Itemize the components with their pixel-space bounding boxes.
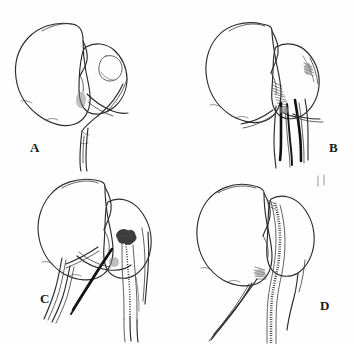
ligature-knot [117,230,137,245]
figure-root: A [0,0,354,344]
panel-b-illustration [177,0,354,172]
panel-label-d: D [320,299,330,312]
figure-panel-c: C [0,172,177,344]
panel-d-illustration [177,172,354,344]
figure-panel-b: B [177,0,354,172]
panel-label-b: B [329,141,338,154]
suture-line [126,244,130,317]
panel-label-c: C [40,292,50,305]
figure-panel-d: D [177,172,354,344]
panel-c-illustration [0,172,177,344]
panel-a-illustration [0,0,177,172]
panel-label-a: A [30,141,40,154]
figure-panel-a: A [0,0,177,172]
hilum-hatching-d [254,200,275,279]
